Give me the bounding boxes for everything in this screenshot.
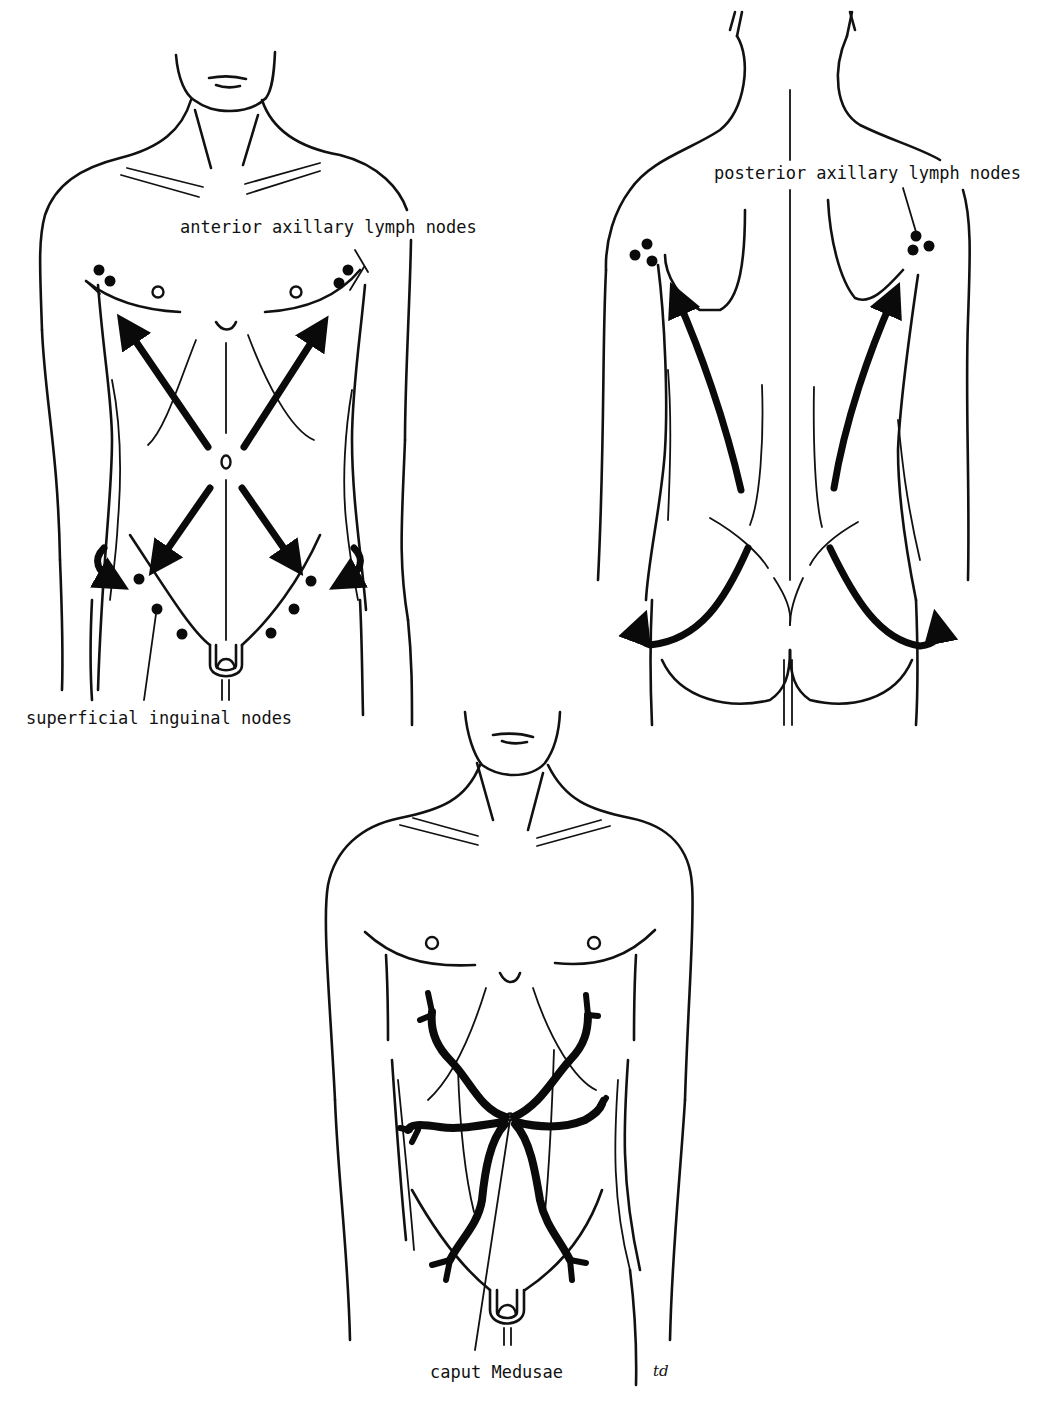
- anterior-torso-figure: [40, 52, 412, 725]
- posterior-drainage-arrows: [639, 300, 939, 646]
- anterior-axillary-nodes-label: anterior axillary lymph nodes: [178, 217, 479, 237]
- anterior-drainage-arrows: [98, 330, 361, 580]
- leader-anterior-axillary: [355, 250, 368, 272]
- posterior-torso-figure: [598, 12, 970, 725]
- caput-medusae-torso-figure: [326, 712, 693, 1385]
- anatomy-diagram: [0, 0, 1050, 1405]
- posterior-axillary-nodes-label: posterior axillary lymph nodes: [712, 163, 1023, 183]
- posterior-axillary-nodes: [630, 188, 935, 267]
- anterior-axillary-nodes: [86, 265, 364, 295]
- artist-signature: td: [653, 1362, 669, 1380]
- leader-inguinal: [144, 614, 156, 700]
- caput-medusae-label: caput Medusae: [428, 1362, 565, 1382]
- caput-medusae-veins: [400, 993, 606, 1280]
- superficial-inguinal-nodes-label: superficial inguinal nodes: [24, 708, 294, 728]
